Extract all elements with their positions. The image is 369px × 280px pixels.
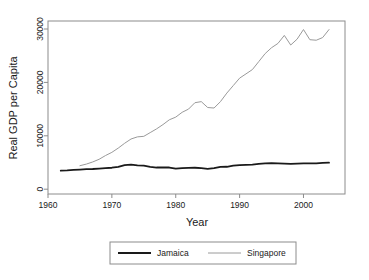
x-tick-label: 1960 [39, 200, 58, 210]
y-tick-label: 20000 [35, 70, 45, 94]
y-tick-label: 10000 [35, 124, 45, 148]
y-tick-label: 30000 [35, 17, 45, 41]
chart-legend: JamaicaSingapore [110, 242, 296, 264]
x-tick-label: 1970 [102, 200, 121, 210]
chart-figure: 0100002000030000 19601970198019902000 Re… [0, 0, 369, 280]
legend-label-singapore: Singapore [247, 248, 286, 258]
gdp-line-chart: 0100002000030000 19601970198019902000 Re… [0, 0, 369, 280]
chart-background [0, 0, 369, 280]
x-tick-label: 2000 [294, 200, 313, 210]
legend-label-jamaica: Jamaica [157, 248, 189, 258]
x-tick-label: 1980 [166, 200, 185, 210]
x-axis-title: Year [186, 216, 209, 228]
x-tick-label: 1990 [230, 200, 249, 210]
y-tick-label: 0 [35, 187, 45, 192]
y-axis-title: Real GDP per Capita [7, 56, 19, 160]
